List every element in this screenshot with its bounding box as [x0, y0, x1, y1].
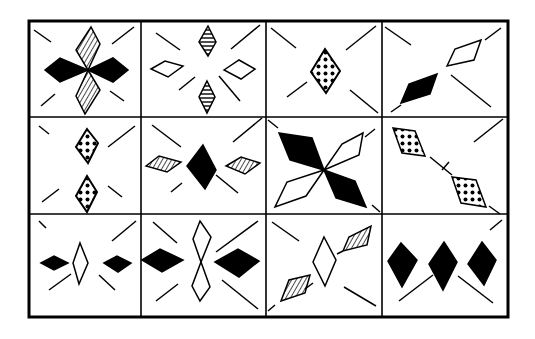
cell-r1-c0 [39, 126, 135, 212]
cell-r2-c3 [388, 220, 502, 303]
cell-r2-c2 [268, 222, 376, 311]
cell-r0-c3 [385, 27, 501, 112]
cell-r2-c1 [142, 221, 259, 309]
cell-r2-c0 [39, 221, 136, 290]
figure-matrix-puzzle [0, 0, 535, 339]
cell-r0-c1 [151, 25, 260, 113]
cell-r1-c3 [393, 119, 503, 214]
cell-r1-c2 [268, 120, 380, 212]
cell-r1-c1 [146, 118, 262, 193]
cell-r0-c0 [34, 27, 134, 114]
cell-r0-c2 [271, 26, 378, 113]
